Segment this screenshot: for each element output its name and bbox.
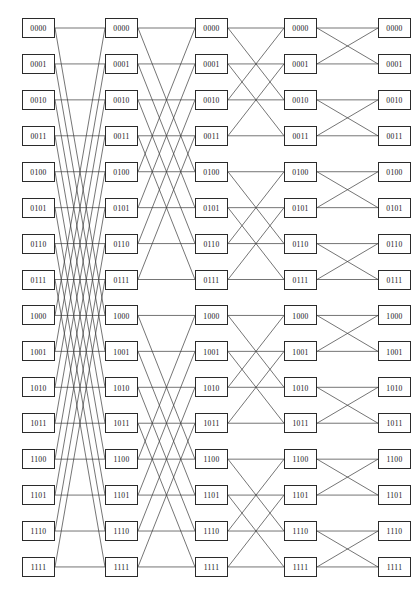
network-node-0101-stage-0[interactable]: 0101 [22,198,55,218]
network-node-0110-stage-1[interactable]: 0110 [105,234,138,254]
network-node-0000-stage-1[interactable]: 0000 [105,18,138,38]
network-node-0111-stage-3[interactable]: 0111 [284,270,317,290]
network-node-label: 0000 [292,25,308,33]
network-node-0010-stage-0[interactable]: 0010 [22,90,55,110]
network-node-1101-stage-0[interactable]: 1101 [22,485,55,505]
network-node-0101-stage-1[interactable]: 0101 [105,198,138,218]
network-node-0111-stage-0[interactable]: 0111 [22,270,55,290]
network-node-1101-stage-2[interactable]: 1101 [195,485,228,505]
network-node-label: 0000 [30,25,46,33]
network-node-0011-stage-0[interactable]: 0011 [22,126,55,146]
network-node-label: 0110 [113,240,129,248]
network-node-1010-stage-4[interactable]: 1010 [378,377,411,397]
network-node-0101-stage-2[interactable]: 0101 [195,198,228,218]
network-node-1011-stage-0[interactable]: 1011 [22,413,55,433]
network-node-0001-stage-3[interactable]: 0001 [284,54,317,74]
network-node-1000-stage-2[interactable]: 1000 [195,305,228,325]
butterfly-network-diagram: 0000000100100011010001010110011110001001… [0,0,416,602]
network-node-1011-stage-2[interactable]: 1011 [195,413,228,433]
network-node-1000-stage-1[interactable]: 1000 [105,305,138,325]
network-node-0100-stage-3[interactable]: 0100 [284,162,317,182]
network-node-1000-stage-0[interactable]: 1000 [22,305,55,325]
network-node-label: 1101 [203,492,219,500]
network-node-label: 0001 [113,61,129,69]
network-node-label: 0001 [30,61,46,69]
network-node-0000-stage-3[interactable]: 0000 [284,18,317,38]
network-node-0001-stage-2[interactable]: 0001 [195,54,228,74]
network-node-0010-stage-3[interactable]: 0010 [284,90,317,110]
network-node-1110-stage-4[interactable]: 1110 [378,521,411,541]
network-node-0100-stage-0[interactable]: 0100 [22,162,55,182]
network-node-label: 0001 [386,61,402,69]
network-node-1011-stage-3[interactable]: 1011 [284,413,317,433]
network-node-0011-stage-1[interactable]: 0011 [105,126,138,146]
network-node-0111-stage-4[interactable]: 0111 [378,270,411,290]
network-node-0011-stage-2[interactable]: 0011 [195,126,228,146]
network-node-0101-stage-4[interactable]: 0101 [378,198,411,218]
network-node-1111-stage-4[interactable]: 1111 [378,557,411,577]
network-node-1001-stage-3[interactable]: 1001 [284,341,317,361]
network-node-0101-stage-3[interactable]: 0101 [284,198,317,218]
network-node-1100-stage-3[interactable]: 1100 [284,449,317,469]
network-node-1010-stage-2[interactable]: 1010 [195,377,228,397]
network-node-0011-stage-3[interactable]: 0011 [284,126,317,146]
network-node-0010-stage-2[interactable]: 0010 [195,90,228,110]
network-node-label: 0110 [292,240,308,248]
network-node-1010-stage-1[interactable]: 1010 [105,377,138,397]
network-node-1101-stage-1[interactable]: 1101 [105,485,138,505]
network-node-1010-stage-3[interactable]: 1010 [284,377,317,397]
network-node-0111-stage-2[interactable]: 0111 [195,270,228,290]
network-node-0000-stage-2[interactable]: 0000 [195,18,228,38]
network-node-0110-stage-4[interactable]: 0110 [378,234,411,254]
network-node-0010-stage-4[interactable]: 0010 [378,90,411,110]
network-node-1100-stage-1[interactable]: 1100 [105,449,138,469]
network-node-label: 0001 [292,61,308,69]
network-node-label: 0010 [203,97,219,105]
network-node-1101-stage-4[interactable]: 1101 [378,485,411,505]
network-node-label: 1011 [386,420,402,428]
network-node-label: 1100 [292,456,308,464]
network-node-0100-stage-4[interactable]: 0100 [378,162,411,182]
network-node-label: 1101 [113,492,129,500]
network-node-1100-stage-0[interactable]: 1100 [22,449,55,469]
network-node-0000-stage-4[interactable]: 0000 [378,18,411,38]
network-node-1110-stage-0[interactable]: 1110 [22,521,55,541]
network-node-0110-stage-2[interactable]: 0110 [195,234,228,254]
network-node-label: 1010 [113,384,129,392]
network-node-1111-stage-1[interactable]: 1111 [105,557,138,577]
network-node-1011-stage-4[interactable]: 1011 [378,413,411,433]
network-node-1011-stage-1[interactable]: 1011 [105,413,138,433]
network-node-0111-stage-1[interactable]: 0111 [105,270,138,290]
network-node-1110-stage-2[interactable]: 1110 [195,521,228,541]
network-node-1001-stage-1[interactable]: 1001 [105,341,138,361]
network-node-0010-stage-1[interactable]: 0010 [105,90,138,110]
network-node-0000-stage-0[interactable]: 0000 [22,18,55,38]
network-node-0001-stage-4[interactable]: 0001 [378,54,411,74]
network-node-1111-stage-3[interactable]: 1111 [284,557,317,577]
network-node-1111-stage-0[interactable]: 1111 [22,557,55,577]
network-node-label: 0100 [113,168,129,176]
network-node-1000-stage-3[interactable]: 1000 [284,305,317,325]
network-node-0100-stage-2[interactable]: 0100 [195,162,228,182]
network-node-1100-stage-4[interactable]: 1100 [378,449,411,469]
network-node-1001-stage-2[interactable]: 1001 [195,341,228,361]
node-layer: 0000000100100011010001010110011110001001… [0,0,416,602]
network-node-0001-stage-1[interactable]: 0001 [105,54,138,74]
network-node-1001-stage-4[interactable]: 1001 [378,341,411,361]
network-node-1100-stage-2[interactable]: 1100 [195,449,228,469]
network-node-0011-stage-4[interactable]: 0011 [378,126,411,146]
network-node-1001-stage-0[interactable]: 1001 [22,341,55,361]
network-node-label: 0011 [292,132,308,140]
network-node-1110-stage-3[interactable]: 1110 [284,521,317,541]
network-node-0110-stage-3[interactable]: 0110 [284,234,317,254]
network-node-1110-stage-1[interactable]: 1110 [105,521,138,541]
network-node-0001-stage-0[interactable]: 0001 [22,54,55,74]
network-node-label: 1000 [292,312,308,320]
network-node-1111-stage-2[interactable]: 1111 [195,557,228,577]
network-node-1010-stage-0[interactable]: 1010 [22,377,55,397]
network-node-1101-stage-3[interactable]: 1101 [284,485,317,505]
network-node-label: 0001 [203,61,219,69]
network-node-0100-stage-1[interactable]: 0100 [105,162,138,182]
network-node-0110-stage-0[interactable]: 0110 [22,234,55,254]
network-node-1000-stage-4[interactable]: 1000 [378,305,411,325]
